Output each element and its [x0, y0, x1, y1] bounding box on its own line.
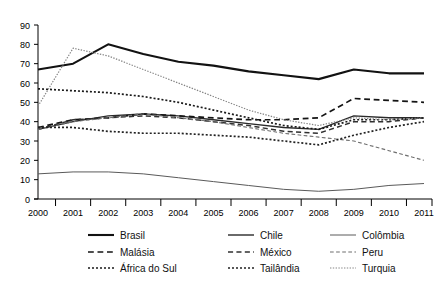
legend-item-tail-ndia: Tailândia — [228, 263, 300, 274]
y-tick-label: 80 — [20, 40, 30, 50]
legend-label: Chile — [260, 230, 283, 241]
y-tick-label: 50 — [20, 98, 30, 108]
y-tick-label: 90 — [20, 21, 30, 31]
legend-label: Colômbia — [362, 230, 405, 241]
legend-item--frica-do-sul: África do Sul — [88, 262, 177, 274]
legend-label: Peru — [362, 247, 383, 258]
legend-label: Turquia — [362, 263, 396, 274]
y-tick-label: 60 — [20, 79, 30, 89]
legend-label: Malásia — [120, 247, 155, 258]
series-line-brasil — [38, 44, 424, 79]
x-tick-label: 2000 — [28, 208, 48, 218]
x-tick-label: 2004 — [168, 208, 188, 218]
legend-label: México — [260, 247, 292, 258]
legend-item-chile: Chile — [228, 230, 283, 241]
x-tick-label: 2005 — [203, 208, 223, 218]
y-tick-label: 30 — [20, 137, 30, 147]
line-chart: 0102030405060708090200020012002200320042… — [0, 0, 438, 295]
series-line-turquia — [38, 48, 424, 125]
x-tick-label: 2001 — [63, 208, 83, 218]
x-tick-label: 2007 — [274, 208, 294, 218]
chart-container: 0102030405060708090200020012002200320042… — [0, 0, 438, 295]
legend-item-col-mbia: Colômbia — [330, 230, 405, 241]
y-tick-label: 40 — [20, 117, 30, 127]
series-line-tail-ndia — [38, 122, 424, 145]
legend-item-peru: Peru — [330, 247, 383, 258]
y-tick-label: 10 — [20, 175, 30, 185]
x-tick-label: 2002 — [98, 208, 118, 218]
x-tick-label: 2003 — [133, 208, 153, 218]
legend-label: África do Sul — [120, 262, 177, 274]
y-tick-label: 0 — [25, 195, 30, 205]
x-tick-label: 2009 — [344, 208, 364, 218]
x-tick-label: 2006 — [239, 208, 259, 218]
legend-item-mal-sia: Malásia — [88, 247, 155, 258]
series-line-col-mbia — [38, 172, 424, 191]
legend-item-m-xico: México — [228, 247, 292, 258]
series-line-peru — [38, 114, 424, 160]
x-tick-label: 2008 — [309, 208, 329, 218]
y-tick-label: 70 — [20, 59, 30, 69]
legend-item-turquia: Turquia — [330, 263, 396, 274]
x-tick-label: 2011 — [414, 208, 433, 218]
y-tick-label: 20 — [20, 156, 30, 166]
legend-item-brasil: Brasil — [88, 230, 145, 241]
legend-label: Tailândia — [260, 263, 300, 274]
legend-label: Brasil — [120, 230, 145, 241]
x-tick-label: 2010 — [379, 208, 399, 218]
